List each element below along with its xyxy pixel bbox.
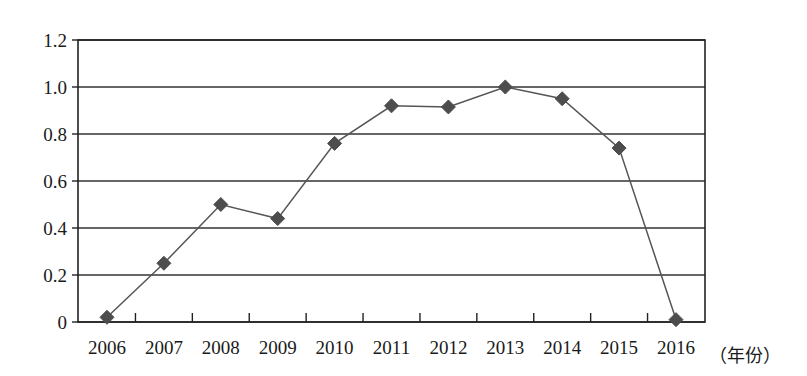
y-tick-label: 0.8 [43,124,67,145]
line-chart: 00.20.40.60.81.01.2 20062007200820092010… [0,0,807,376]
y-tick-label: 1.2 [43,30,67,51]
y-tick-label: 0.4 [43,218,67,239]
y-tick-label: 0 [58,312,68,333]
x-tick-label: 2012 [429,337,467,358]
x-tick-label: 2010 [316,337,354,358]
y-tick-label: 1.0 [43,77,67,98]
x-axis-unit-label: （年份） [709,346,781,366]
x-tick-label: 2013 [486,337,524,358]
x-tick-label: 2014 [543,337,582,358]
x-tick-label: 2008 [202,337,240,358]
chart-svg: 00.20.40.60.81.01.2 20062007200820092010… [0,0,807,376]
y-tick-label: 0.6 [43,171,67,192]
x-tick-label: 2015 [600,337,638,358]
x-tick-label: 2016 [657,337,695,358]
x-tick-label: 2007 [145,337,183,358]
x-axis-labels: 2006200720082009201020112012201320142015… [88,337,695,358]
x-tick-label: 2006 [88,337,126,358]
x-tick-label: 2011 [373,337,410,358]
y-tick-label: 0.2 [43,265,67,286]
chart-background [0,0,807,376]
x-tick-label: 2009 [259,337,297,358]
